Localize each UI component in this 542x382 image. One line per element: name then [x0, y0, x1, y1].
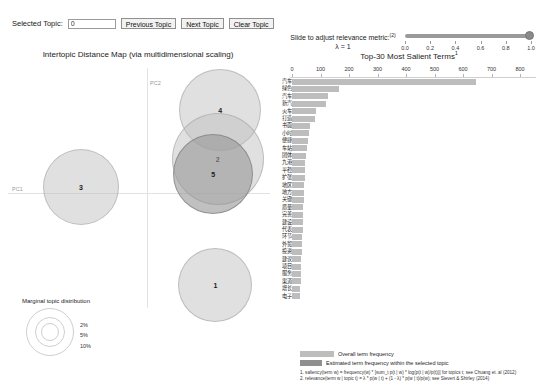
bar-overall-frequency[interactable] [292, 256, 301, 262]
bar-overall-frequency[interactable] [292, 190, 304, 196]
table-row[interactable]: 扩张 [276, 174, 542, 181]
legend-label-overall: Overall term frequency [338, 351, 394, 357]
table-row[interactable]: 小时 [276, 130, 542, 137]
chart-footnotes: 1. saliency(term w) = frequency(w) * [su… [300, 370, 542, 382]
legend-label-estimated: Estimated term frequency within the sele… [326, 360, 449, 366]
selected-topic-input[interactable] [68, 19, 116, 29]
table-row[interactable]: 完善 [276, 211, 542, 218]
table-row[interactable]: 建议 [276, 256, 542, 263]
bar-term-label: 完善 [252, 211, 292, 218]
bar-overall-frequency[interactable] [292, 241, 302, 247]
table-row[interactable]: 外贸 [276, 241, 542, 248]
table-row[interactable]: 质量 [276, 204, 542, 211]
slider-handle[interactable] [525, 31, 534, 40]
table-row[interactable]: 服务 [276, 270, 542, 277]
lambda-value-label: λ = 1 [288, 43, 398, 50]
topic-bubble-3[interactable]: 3 [43, 149, 119, 225]
slider-rail[interactable] [405, 34, 531, 38]
x-axis-tick-label: 400 [401, 66, 410, 72]
bar-overall-frequency[interactable] [292, 249, 302, 255]
x-axis-tick-label: 0 [290, 66, 293, 72]
bar-overall-frequency[interactable] [292, 271, 301, 277]
bar-term-label: 渠道 [252, 278, 292, 285]
topic-bubble-5[interactable]: 5 [173, 134, 253, 214]
bar-overall-frequency[interactable] [292, 182, 304, 188]
table-row[interactable]: 团体 [276, 152, 542, 159]
bar-term-label: 平稳 [252, 167, 292, 174]
table-row[interactable]: 投资 [276, 248, 542, 255]
table-row[interactable]: 汽车 [276, 78, 542, 85]
table-row[interactable]: 绿色 [276, 85, 542, 92]
intertopic-distance-panel: Intertopic Distance Map (via multidimens… [0, 50, 276, 365]
slider-tick [531, 41, 532, 44]
bar-overall-frequency[interactable] [292, 116, 315, 122]
bar-overall-frequency[interactable] [292, 160, 305, 166]
topic-bubble-1[interactable]: 1 [178, 248, 252, 322]
table-row[interactable]: 渠道 [276, 278, 542, 285]
bar-overall-frequency[interactable] [292, 175, 305, 181]
topic-bubble-number: 1 [213, 281, 217, 288]
bar-overall-frequency[interactable] [292, 108, 316, 114]
bar-term-label: 质量 [252, 204, 292, 211]
table-row[interactable]: 便捷 [276, 137, 542, 144]
x-axis-tick-label: 100 [316, 66, 325, 72]
table-row[interactable]: 项目 [276, 263, 542, 270]
bar-overall-frequency[interactable] [292, 278, 301, 284]
bar-overall-frequency[interactable] [292, 227, 303, 233]
bar-term-label: 电子 [252, 293, 292, 300]
clear-topic-button[interactable]: Clear Topic [229, 18, 274, 29]
selected-topic-label: Selected Topic: [12, 19, 63, 28]
bar-overall-frequency[interactable] [292, 123, 310, 129]
bar-term-label: 小时 [252, 130, 292, 137]
relevance-slider-label: Slide to adjust relevance metric:(2) [288, 32, 398, 41]
intertopic-map-title: Intertopic Distance Map (via multidimens… [0, 50, 276, 59]
table-row[interactable]: 打造 [276, 115, 542, 122]
bar-term-label: 便捷 [252, 137, 292, 144]
bar-overall-frequency[interactable] [292, 130, 309, 136]
salient-terms-bar-list[interactable]: 汽车绿色汽车新汽火车打造书面小时便捷车站团体九港平稳扩张地区地方关键质量完善建设… [276, 78, 542, 304]
bar-overall-frequency[interactable] [292, 219, 303, 225]
table-row[interactable]: 汽车 [276, 93, 542, 100]
bar-overall-frequency[interactable] [292, 286, 300, 292]
table-row[interactable]: 九港 [276, 159, 542, 166]
table-row[interactable]: 平稳 [276, 167, 542, 174]
bar-overall-frequency[interactable] [292, 86, 339, 92]
table-row[interactable]: 书面 [276, 122, 542, 129]
table-row[interactable]: 环节 [276, 233, 542, 240]
bar-overall-frequency[interactable] [292, 138, 308, 144]
bar-overall-frequency[interactable] [292, 204, 303, 210]
bar-overall-frequency[interactable] [292, 234, 302, 240]
bar-overall-frequency[interactable] [292, 145, 307, 151]
next-topic-button[interactable]: Next Topic [181, 18, 224, 29]
bar-overall-frequency[interactable] [292, 197, 304, 203]
previous-topic-button[interactable]: Previous Topic [121, 18, 176, 29]
table-row[interactable]: 代表 [276, 226, 542, 233]
table-row[interactable]: 电子 [276, 293, 542, 300]
bar-term-label: 建设 [252, 219, 292, 226]
bar-overall-frequency[interactable] [292, 153, 306, 159]
intertopic-scatter-plot[interactable]: PC2 PC1 42531 [8, 68, 270, 308]
marginal-label-2pct: 2% [80, 322, 88, 328]
bar-term-label: 火车 [252, 108, 292, 115]
table-row[interactable]: 新汽 [276, 100, 542, 107]
mds-vertical-axis [147, 68, 148, 308]
bar-overall-frequency[interactable] [292, 264, 301, 270]
table-row[interactable]: 地区 [276, 182, 542, 189]
table-row[interactable]: 关键 [276, 196, 542, 203]
bar-overall-frequency[interactable] [292, 79, 476, 85]
table-row[interactable]: 火车 [276, 108, 542, 115]
bar-overall-frequency[interactable] [292, 167, 305, 173]
bar-term-label: 汽车 [252, 78, 292, 85]
table-row[interactable]: 地方 [276, 189, 542, 196]
x-axis-tick-label: 800 [515, 66, 524, 72]
bar-term-label: 扩张 [252, 174, 292, 181]
x-axis-tick-label: 700 [487, 66, 496, 72]
table-row[interactable]: 增长 [276, 285, 542, 292]
table-row[interactable]: 建设 [276, 219, 542, 226]
bar-term-label: 环节 [252, 233, 292, 240]
bar-overall-frequency[interactable] [292, 212, 303, 218]
table-row[interactable]: 车站 [276, 145, 542, 152]
bar-overall-frequency[interactable] [292, 293, 300, 299]
bar-overall-frequency[interactable] [292, 93, 328, 99]
bar-overall-frequency[interactable] [292, 101, 326, 107]
